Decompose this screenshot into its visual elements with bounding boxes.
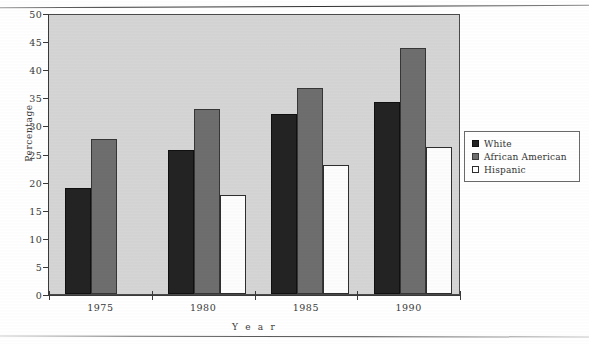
legend-label-african-american: African American <box>484 152 567 162</box>
bar <box>65 188 91 294</box>
bar <box>168 150 194 294</box>
legend-item-white: White <box>472 137 573 150</box>
legend-item-hispanic: Hispanic <box>472 163 573 176</box>
y-tick-label: 10 <box>29 233 42 244</box>
bar <box>400 48 426 294</box>
bar <box>426 147 452 294</box>
chart-legend: White African American Hispanic <box>464 131 580 182</box>
x-tick-label: 1980 <box>190 302 216 313</box>
y-tick-label: 30 <box>29 121 42 132</box>
y-tick-label: 45 <box>29 37 42 48</box>
x-tick-mark <box>460 291 461 300</box>
y-tick-label: 35 <box>29 93 42 104</box>
y-tick-label: 5 <box>36 261 42 272</box>
x-tick-mark <box>357 291 358 300</box>
y-tick-label: 50 <box>29 9 42 20</box>
legend-swatch-white <box>472 140 479 147</box>
x-tick-label: 1975 <box>87 302 113 313</box>
bar <box>194 109 220 294</box>
x-axis-title: Y e a r <box>49 322 460 332</box>
y-tick-label: 15 <box>29 205 42 216</box>
bar <box>220 195 246 294</box>
bars-container <box>49 15 459 294</box>
bar-group <box>357 15 460 294</box>
y-tick-label: 40 <box>29 65 42 76</box>
y-tick-label: 25 <box>29 149 42 160</box>
bar <box>323 165 349 294</box>
y-tick-label: 0 <box>36 290 42 301</box>
legend-swatch-african-american <box>472 153 479 160</box>
x-tick-label: 1990 <box>396 302 422 313</box>
bar-group <box>152 15 255 294</box>
bar-group <box>49 15 152 294</box>
plot-area <box>49 14 460 295</box>
legend-label-hispanic: Hispanic <box>484 165 526 175</box>
x-tick-mark <box>49 291 50 300</box>
legend-item-african-american: African American <box>472 150 573 163</box>
legend-swatch-hispanic <box>472 166 479 173</box>
x-tick-mark <box>152 291 153 300</box>
bar-chart-figure: Percentage 05101520253035404550 19751980… <box>0 0 589 344</box>
bar-group <box>255 15 358 294</box>
bar <box>271 114 297 294</box>
bar <box>91 139 117 294</box>
bar <box>374 102 400 294</box>
legend-label-white: White <box>484 139 512 149</box>
x-tick-mark <box>255 291 256 300</box>
x-tick-label: 1985 <box>293 302 319 313</box>
y-axis-tick-labels: 05101520253035404550 <box>18 14 42 294</box>
bar <box>297 88 323 294</box>
y-tick-label: 20 <box>29 177 42 188</box>
